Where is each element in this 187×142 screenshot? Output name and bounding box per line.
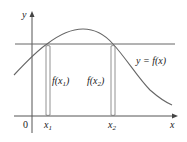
curve-label: y = f(x) — [135, 55, 167, 67]
fx2-label: f(x2) — [87, 75, 105, 88]
x-axis — [14, 114, 178, 119]
fx1-label: f(x1) — [52, 75, 70, 88]
fx1-bracket — [46, 46, 50, 116]
x-axis-label: x — [169, 119, 175, 130]
fx2-bracket — [111, 46, 115, 116]
y-axis-label: y — [21, 9, 27, 20]
function-curve — [14, 29, 172, 105]
x-axis-arrow-icon — [172, 114, 178, 119]
origin-label: 0 — [23, 119, 28, 130]
x2-label: x2 — [107, 119, 116, 132]
x1-label: x1 — [43, 119, 52, 132]
y-axis-arrow-icon — [30, 11, 35, 17]
y-axis — [30, 11, 35, 133]
function-diagram: y x 0 y = f(x) x1 x2 f(x1) f(x2) — [0, 0, 187, 142]
